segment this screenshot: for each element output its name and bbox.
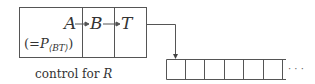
field-b-label: B — [89, 13, 103, 33]
connector-line — [147, 25, 176, 57]
array — [167, 60, 287, 80]
annotation-open: (= — [24, 36, 40, 51]
annotation-symbol: P — [39, 36, 49, 51]
field-t-label: T — [121, 13, 134, 33]
connector-arrowhead — [173, 54, 178, 59]
annotation-subscript: ⟨BT⟩ — [49, 43, 69, 53]
arrow-a-to-b-head — [85, 22, 89, 26]
arrow-b-to-t-head — [116, 22, 120, 26]
annotation: (=P⟨BT⟩) — [24, 36, 73, 53]
connector-t-to-array — [147, 25, 176, 57]
caption-var: R — [102, 67, 112, 81]
field-a-label: A — [62, 13, 76, 33]
diagram-canvas: A B T (=P⟨BT⟩) control for R · · · — [0, 0, 315, 84]
annotation-close: ) — [68, 36, 73, 51]
array-ellipsis: · · · — [288, 63, 304, 74]
caption: control for R — [35, 67, 112, 81]
caption-text: control for — [35, 67, 103, 81]
